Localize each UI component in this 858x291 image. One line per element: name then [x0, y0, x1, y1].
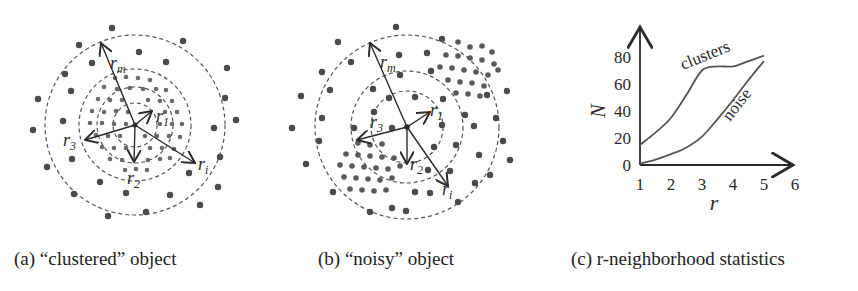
label-r2: r2	[410, 154, 423, 177]
label-ri: ri	[442, 179, 452, 202]
y-tick: 40	[614, 102, 631, 121]
x-tick: 2	[667, 175, 676, 194]
label-rm: rm	[380, 52, 396, 75]
cluster-top-right	[437, 39, 501, 99]
y-tick: 20	[614, 129, 631, 148]
x-axis-label: r	[710, 190, 719, 215]
label-r1: r1	[430, 100, 443, 123]
x-tick: 1	[636, 175, 645, 194]
x-tick: 3	[698, 175, 707, 194]
caption-b: (b) “noisy” object	[318, 248, 454, 270]
panel-c-r-neighborhood-chart: 020406080 123456 N r clusters noise	[580, 0, 858, 240]
label-r3: r3	[63, 130, 76, 153]
label-r1: r1	[156, 106, 169, 129]
caption-a: (a) “clustered” object	[14, 248, 176, 270]
x-tick: 6	[791, 175, 800, 194]
caption-c: (c) r-neighborhood statistics	[571, 248, 785, 270]
y-tick: 60	[614, 75, 631, 94]
noise-dots	[289, 24, 513, 215]
panel-b-noisy-diagram: rm r1 r2 r3 ri	[270, 0, 550, 240]
noise-label: noise	[718, 84, 755, 124]
y-axis-label: N	[587, 103, 609, 119]
y-tick-labels: 020406080	[614, 48, 631, 175]
label-rm: rm	[110, 53, 126, 76]
x-tick: 5	[760, 175, 769, 194]
y-tick: 80	[614, 48, 631, 67]
cluster-bottom-left	[337, 140, 403, 194]
x-tick: 4	[729, 175, 738, 194]
label-ri: ri	[198, 154, 208, 177]
noise-curve	[640, 61, 764, 164]
y-tick: 0	[623, 156, 632, 175]
label-r2: r2	[127, 168, 140, 191]
label-r3: r3	[370, 112, 383, 135]
panel-a-clustered-diagram: rm r1 r2 r3 ri	[0, 0, 270, 240]
